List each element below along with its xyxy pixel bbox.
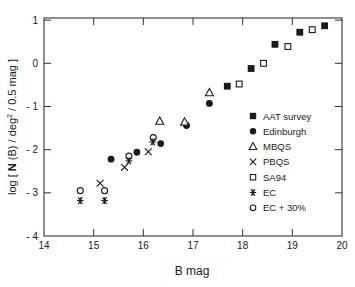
series-mbqs	[156, 88, 214, 125]
legend: AAT surveyEdinburghMBQSPBQSSA94ECEC + 30…	[249, 111, 311, 214]
legend-label: MBQS	[263, 141, 291, 152]
filled-circle-marker-icon	[206, 100, 213, 107]
open-circle-marker-icon	[250, 205, 256, 211]
legend-label: PBQS	[263, 156, 289, 167]
y-tick-label: - 4	[26, 231, 38, 242]
legend-item: EC	[250, 187, 277, 198]
open-square-marker-icon	[309, 27, 315, 33]
legend-item: Edinburgh	[250, 126, 307, 137]
x-tick-label: 18	[237, 240, 249, 251]
cross-marker-icon	[250, 159, 256, 165]
x-tick-label: 14	[38, 240, 50, 251]
y-tick-label: 1	[32, 15, 38, 26]
y-axis-label: log [ N (B) / deg2 / 0.5 mag ]	[6, 59, 18, 195]
cross-marker-icon	[145, 148, 152, 155]
x-axis-label: B mag	[175, 264, 210, 278]
asterisk-marker-icon	[77, 197, 84, 204]
legend-item: EC + 30%	[250, 202, 306, 213]
legend-item: MBQS	[249, 141, 291, 152]
series-sa94	[236, 27, 315, 87]
legend-item: SA94	[250, 172, 286, 183]
legend-label: EC + 30%	[263, 202, 307, 213]
series-ec	[77, 138, 156, 204]
filled-square-marker-icon	[272, 41, 279, 48]
series-edinburgh	[108, 100, 213, 162]
open-circle-marker-icon	[77, 188, 83, 194]
open-circle-marker-icon	[102, 188, 108, 194]
legend-label: SA94	[263, 172, 286, 183]
filled-circle-marker-icon	[250, 128, 256, 134]
open-square-marker-icon	[285, 44, 291, 50]
y-label-prefix: log [	[6, 171, 18, 195]
x-tick-label: 19	[287, 240, 299, 251]
legend-label: Edinburgh	[263, 126, 306, 137]
asterisk-marker-icon	[250, 189, 256, 195]
scatter-chart: 1415161718192010- 1- 2- 3- 4 AAT surveyE…	[0, 0, 355, 287]
x-tick-label: 20	[336, 240, 348, 251]
legend-item: PBQS	[250, 156, 290, 167]
open-square-marker-icon	[236, 81, 242, 87]
open-square-marker-icon	[261, 60, 267, 66]
cross-marker-icon	[97, 180, 104, 187]
y-label-bold: N	[6, 163, 18, 171]
open-triangle-marker-icon	[205, 88, 213, 95]
y-tick-label: - 1	[26, 101, 38, 112]
filled-circle-marker-icon	[157, 140, 164, 147]
cross-marker-icon	[121, 164, 128, 171]
series-pbqs	[97, 148, 152, 186]
filled-circle-marker-icon	[108, 156, 115, 163]
x-tick-label: 17	[187, 240, 199, 251]
x-tick-label: 15	[88, 240, 100, 251]
y-label-suffix: / 0.5 mag ]	[6, 59, 18, 114]
asterisk-marker-icon	[101, 197, 108, 204]
open-triangle-marker-icon	[181, 118, 189, 125]
filled-square-marker-icon	[296, 29, 303, 36]
legend-label: EC	[263, 187, 276, 198]
open-square-marker-icon	[250, 175, 255, 180]
series-ec-30-	[77, 135, 156, 194]
legend-item: AAT survey	[250, 111, 312, 122]
x-tick-label: 16	[138, 240, 150, 251]
legend-label: AAT survey	[263, 111, 311, 122]
filled-square-marker-icon	[250, 113, 256, 119]
filled-circle-marker-icon	[133, 149, 140, 156]
y-tick-label: 0	[32, 58, 38, 69]
y-label-middle: (B) / deg	[6, 118, 18, 163]
y-tick-label: - 2	[26, 144, 38, 155]
y-tick-label: - 3	[26, 187, 38, 198]
open-triangle-marker-icon	[156, 117, 164, 124]
filled-square-marker-icon	[224, 83, 231, 90]
open-triangle-marker-icon	[249, 143, 257, 150]
filled-square-marker-icon	[321, 22, 328, 29]
filled-square-marker-icon	[248, 65, 255, 72]
